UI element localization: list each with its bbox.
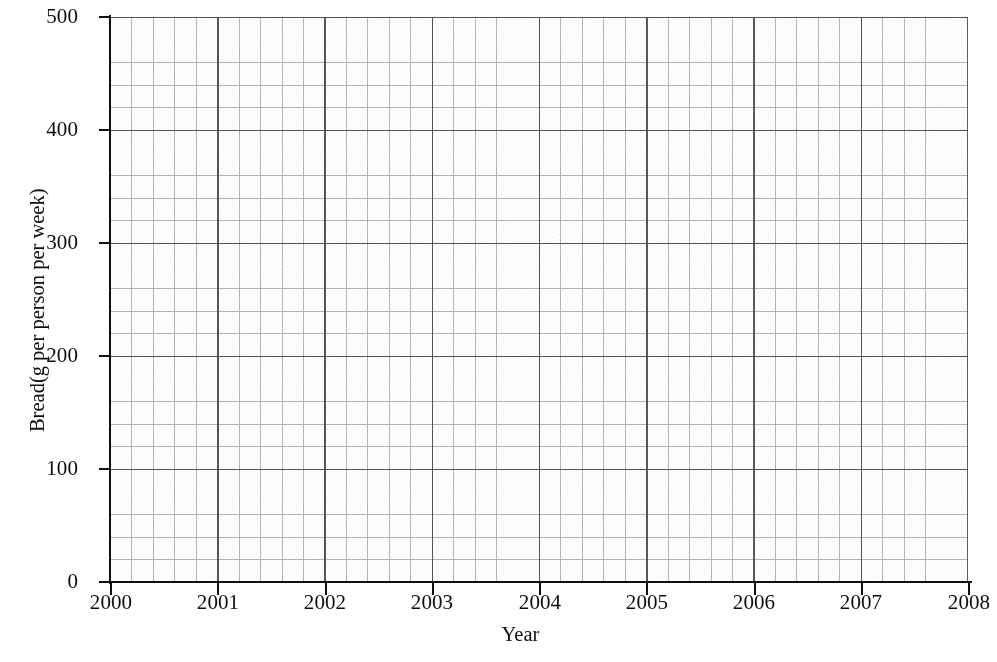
y-tick-label-400: 400 [46, 119, 78, 140]
x-axis-title: Year [0, 624, 997, 645]
y-axis-line [109, 15, 111, 584]
y-tick-label-100: 100 [46, 458, 78, 479]
y-tick-label-0: 0 [67, 571, 78, 592]
x-tick-label-2003: 2003 [372, 592, 492, 613]
y-tick-400 [99, 129, 110, 131]
y-tick-500 [99, 16, 110, 18]
x-tick-label-2000: 2000 [51, 592, 171, 613]
y-tick-label-300: 300 [46, 232, 78, 253]
y-tick-200 [99, 355, 110, 357]
grid-right-edge [967, 17, 968, 582]
x-tick-label-2006: 2006 [694, 592, 814, 613]
y-tick-label-500: 500 [46, 6, 78, 27]
x-tick-label-2005: 2005 [587, 592, 707, 613]
grid-major [110, 17, 968, 582]
graph-paper-chart: 500 400 300 200 100 0 2000 2001 2002 200… [0, 0, 997, 662]
y-axis-title: Bread(g per person per week) [27, 130, 48, 490]
x-tick-label-2002: 2002 [265, 592, 385, 613]
y-tick-label-200: 200 [46, 345, 78, 366]
x-axis-title-text: Year [502, 623, 540, 645]
x-tick-label-2008: 2008 [909, 592, 997, 613]
x-tick-label-2007: 2007 [801, 592, 921, 613]
y-tick-0 [99, 581, 110, 583]
x-tick-label-2001: 2001 [158, 592, 278, 613]
x-tick-label-2004: 2004 [480, 592, 600, 613]
plot-area [110, 17, 968, 582]
y-tick-300 [99, 242, 110, 244]
y-tick-100 [99, 468, 110, 470]
